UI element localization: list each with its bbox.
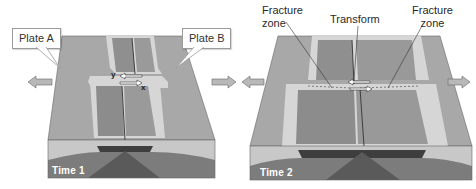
panel-time-2: Fracture zone Transform Fracture zone Ti… <box>236 0 476 189</box>
time-label-2: Time 2 <box>260 167 293 178</box>
arrow-right-icon <box>212 76 236 88</box>
label-fracture-zone-right: Fracture zone <box>412 4 453 30</box>
callout-plate-b: Plate B <box>182 28 231 49</box>
arrow-left-icon <box>242 76 264 88</box>
point-label-y: y <box>111 70 115 79</box>
label-transform: Transform <box>330 13 380 26</box>
time-label-1: Time 1 <box>52 165 85 176</box>
point-label-x: x <box>141 83 145 92</box>
label-fracture-zone-left: Fracture zone <box>262 4 303 30</box>
arrow-left-icon <box>28 76 52 88</box>
panel-time-1: Plate A Plate B y x Time 1 <box>0 0 240 189</box>
callout-plate-a: Plate A <box>12 28 61 49</box>
